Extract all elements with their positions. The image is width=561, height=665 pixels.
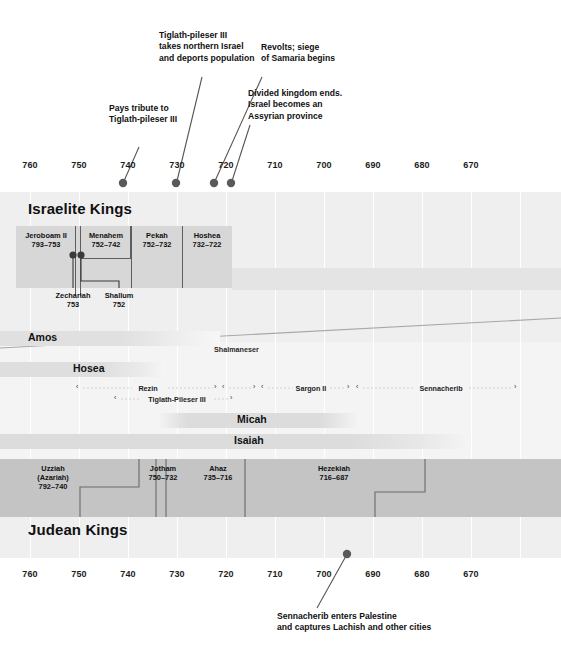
annotation-divided-kingdom-ends: Divided kingdom ends. Israel becomes an … <box>248 88 342 122</box>
reign-label-ahaz: Ahaz 735–716 <box>194 464 242 482</box>
marker-dot-revolts-siege <box>210 179 218 187</box>
reign-name: Zechariah <box>49 291 97 300</box>
reign-years: 752–732 <box>132 240 182 249</box>
annotation-line: Assyrian province <box>248 111 342 122</box>
axis-tick-top: 680 <box>414 160 430 170</box>
annotation-takes-northern-israel: Tiglath-pileser III takes northern Israe… <box>159 30 254 64</box>
axis-tick-top: 740 <box>120 160 136 170</box>
axis-tick-bottom: 760 <box>22 569 38 579</box>
reign-name: Hezekiah <box>306 464 362 473</box>
annotation-line: takes northern Israel <box>159 41 254 52</box>
bracket-open-sargon-ii: ‹ <box>261 383 263 390</box>
axis-tick-bottom: 700 <box>316 569 332 579</box>
annotation-line: Divided kingdom ends. <box>248 88 342 99</box>
reign-name: Hoshea <box>183 231 231 240</box>
reign-label-hoshea: Hoshea 732–722 <box>183 231 231 249</box>
ruler-label-sargon-ii: Sargon II <box>296 384 327 393</box>
annotation-line: Sennacherib enters Palestine <box>277 611 431 622</box>
reign-name: Menahem <box>82 231 130 240</box>
marker-dot-divided-kingdom-ends <box>227 179 235 187</box>
ruler-label-sennacherib: Sennacherib <box>419 384 462 393</box>
bracket-open-tiglath-pileser-iii: ‹ <box>114 394 116 401</box>
axis-tick-top: 690 <box>365 160 381 170</box>
reign-label-zechariah: Zechariah 753 <box>49 291 97 309</box>
axis-tick-top: 760 <box>22 160 38 170</box>
annotation-pays-tribute: Pays tribute to Tiglath-pileser III <box>109 103 177 126</box>
prophet-label-hosea: Hosea <box>73 362 105 374</box>
annotation-line: Tiglath-pileser III <box>159 30 254 41</box>
axis-tick-top: 750 <box>71 160 87 170</box>
bracket-close-rezin: › <box>214 383 216 390</box>
marker-dot-takes-northern-israel <box>172 179 180 187</box>
ruler-label-tiglath-pileser-iii: Tiglath-Pileser III <box>148 395 205 404</box>
prophet-label-micah: Micah <box>237 413 267 425</box>
reign-years: 750–732 <box>140 473 186 482</box>
annotation-line: Israel becomes an <box>248 99 342 110</box>
reign-name: Jotham <box>140 464 186 473</box>
reign-name: Shallum <box>96 291 142 300</box>
axis-tick-bottom: 710 <box>267 569 283 579</box>
axis-tick-bottom: 720 <box>218 569 234 579</box>
annotation-line: of Samaria begins <box>261 53 335 64</box>
annotation-revolts-siege: Revolts; siege of Samaria begins <box>261 42 335 65</box>
israelite-kings-bar-extension <box>232 268 561 290</box>
axis-tick-bottom: 740 <box>120 569 136 579</box>
reign-label-jeroboam-ii: Jeroboam II 793–753 <box>18 231 74 249</box>
reign-years: 735–716 <box>194 473 242 482</box>
reign-divider <box>80 226 81 296</box>
prophet-label-amos: Amos <box>28 331 57 343</box>
reign-label-pekah: Pekah 752–732 <box>132 231 182 249</box>
reign-years: 752–742 <box>82 240 130 249</box>
section-title-judean-kings: Judean Kings <box>28 521 128 538</box>
axis-tick-top: 730 <box>169 160 185 170</box>
reign-label-shallum: Shallum 752 <box>96 291 142 309</box>
reign-years: 716–687 <box>306 473 362 482</box>
annotation-line: and captures Lachish and other cities <box>277 622 431 633</box>
axis-tick-top: 720 <box>218 160 234 170</box>
reign-name: Jeroboam II <box>18 231 74 240</box>
reign-divider <box>75 226 76 296</box>
bracket-close-sargon-ii: › <box>347 383 349 390</box>
annotation-sennacherib-palestine: Sennacherib enters Palestine and capture… <box>277 611 431 634</box>
timeline-infographic: Pays tribute to Tiglath-pileser III Tigl… <box>0 0 561 665</box>
reign-name: Pekah <box>132 231 182 240</box>
axis-tick-top: 700 <box>316 160 332 170</box>
axis-tick-top: 710 <box>267 160 283 170</box>
bracket-open-sennacherib: ‹ <box>356 383 358 390</box>
leader-line-divided-kingdom-ends <box>232 125 250 181</box>
annotation-line: and deports population <box>159 53 254 64</box>
axis-tick-top: 670 <box>463 160 479 170</box>
reign-years: 753 <box>49 300 97 309</box>
reign-divider-horizontal <box>80 258 131 259</box>
axis-tick-bottom: 670 <box>463 569 479 579</box>
axis-tick-bottom: 690 <box>365 569 381 579</box>
bracket-close-tiglath-pileser-iii: › <box>230 394 232 401</box>
axis-tick-bottom: 730 <box>169 569 185 579</box>
marker-dot-pays-tribute <box>119 179 127 187</box>
axis-tick-bottom: 680 <box>414 569 430 579</box>
reign-name: Uzziah <box>22 464 84 473</box>
section-title-israelite-kings: Israelite Kings <box>28 200 132 217</box>
annotation-line: Revolts; siege <box>261 42 335 53</box>
bracket-open-rezin: ‹ <box>76 383 78 390</box>
reign-years: 732–722 <box>183 240 231 249</box>
annotation-line: Tiglath-pileser III <box>109 114 177 125</box>
reign-years: 792–740 <box>22 482 84 491</box>
judean-kings-bar <box>0 459 561 517</box>
bracket-open-gap1: ‹ <box>222 383 224 390</box>
axis-tick-bottom: 750 <box>71 569 87 579</box>
reign-years: 752 <box>96 300 142 309</box>
ruler-label-shalmaneser: Shalmaneser <box>214 345 259 354</box>
reign-name: Ahaz <box>194 464 242 473</box>
leader-line-sennacherib-palestine <box>317 556 346 608</box>
reign-years: 793–753 <box>18 240 74 249</box>
bracket-close-sennacherib: › <box>514 383 516 390</box>
reign-label-hezekiah: Hezekiah 716–687 <box>306 464 362 482</box>
ruler-label-rezin: Rezin <box>138 384 157 393</box>
annotation-line: Pays tribute to <box>109 103 177 114</box>
reign-label-jotham: Jotham 750–732 <box>140 464 186 482</box>
prophet-label-isaiah: Isaiah <box>234 434 264 446</box>
reign-name-alt: (Azariah) <box>22 473 84 482</box>
reign-label-menahem: Menahem 752–742 <box>82 231 130 249</box>
bracket-close-gap1: › <box>253 383 255 390</box>
